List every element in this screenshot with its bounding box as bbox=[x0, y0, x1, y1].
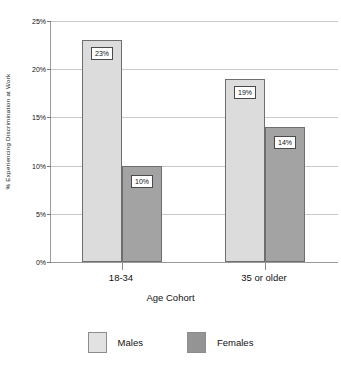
legend-entry-males[interactable]: Males bbox=[88, 332, 143, 353]
chart-legend: Males Females bbox=[0, 332, 341, 353]
y-tick-mark-20 bbox=[47, 69, 51, 70]
y-tick-mark-10 bbox=[47, 166, 51, 167]
x-axis-title: Age Cohort bbox=[0, 292, 341, 303]
bar-value-females-18-34: 10% bbox=[131, 175, 153, 188]
gridline-25 bbox=[51, 21, 338, 22]
bar-value-males-35-or-older: 19% bbox=[234, 86, 256, 99]
y-tick-label-15: 15% bbox=[4, 114, 46, 121]
bar-value-females-35-or-older: 14% bbox=[274, 136, 296, 149]
y-tick-label-20: 20% bbox=[4, 66, 46, 73]
x-tick-mark-35-or-older bbox=[265, 263, 266, 270]
y-tick-mark-0 bbox=[47, 262, 51, 263]
y-tick-mark-5 bbox=[47, 214, 51, 215]
bar-males-18-34[interactable]: 23% bbox=[82, 40, 122, 262]
bar-value-males-18-34: 23% bbox=[91, 47, 113, 60]
y-tick-label-25: 25% bbox=[4, 18, 46, 25]
legend-label-females: Females bbox=[217, 337, 253, 348]
x-tick-label-35-or-older: 35 or older bbox=[194, 272, 334, 283]
x-tick-label-18-34: 18-34 bbox=[51, 272, 191, 283]
x-tick-mark-18-34 bbox=[122, 263, 123, 270]
legend-entry-females[interactable]: Females bbox=[187, 332, 253, 353]
bar-males-35-or-older[interactable]: 19% bbox=[225, 79, 265, 262]
bar-females-35-or-older[interactable]: 14% bbox=[265, 127, 305, 262]
y-tick-mark-25 bbox=[47, 21, 51, 22]
bar-group-18-34: 23% 10% bbox=[82, 40, 162, 262]
plot-area: 23% 10% 19% 14% bbox=[50, 21, 338, 263]
y-tick-label-5: 5% bbox=[4, 211, 46, 218]
y-axis-title-text: % Experiencing Discrimination at Work bbox=[5, 73, 12, 189]
bar-group-35-or-older: 19% 14% bbox=[225, 79, 305, 262]
y-axis-title: % Experiencing Discrimination at Work bbox=[0, 0, 16, 262]
y-tick-label-0: 0% bbox=[4, 259, 46, 266]
legend-swatch-males-icon bbox=[88, 332, 107, 353]
y-tick-label-10: 10% bbox=[4, 163, 46, 170]
legend-label-males: Males bbox=[118, 337, 143, 348]
bar-females-18-34[interactable]: 10% bbox=[122, 166, 162, 262]
legend-swatch-females-icon bbox=[187, 332, 206, 353]
bar-chart-figure: % Experiencing Discrimination at Work 25… bbox=[0, 0, 341, 374]
y-tick-mark-15 bbox=[47, 117, 51, 118]
